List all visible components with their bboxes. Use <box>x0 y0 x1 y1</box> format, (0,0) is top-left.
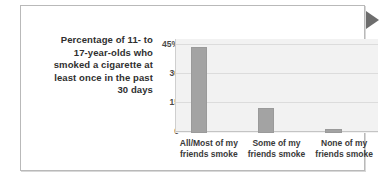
bar-band <box>243 39 310 133</box>
bar-band <box>176 39 243 133</box>
bar-series <box>176 39 378 133</box>
bar-none-friends-smoke[interactable] <box>325 129 341 133</box>
x-tick-label-none: None of my friends smoke <box>310 138 378 159</box>
screenshot-root: Percentage of 11- to 17-year-olds who sm… <box>0 0 385 181</box>
x-tick-line: None of my <box>310 138 378 149</box>
x-tick-line: All/Most of my <box>175 138 243 149</box>
bar-some-friends-smoke[interactable] <box>258 108 274 133</box>
x-tick-label-some: Some of my friends smoke <box>243 138 311 159</box>
chart-caption: Percentage of 11- to 17-year-olds who sm… <box>49 34 153 97</box>
bar-chart: 45% 30 15 0 <box>155 37 380 169</box>
plot-area <box>175 39 378 133</box>
bar-all-most-friends-smoke[interactable] <box>191 47 207 133</box>
x-axis-labels: All/Most of my friends smoke Some of my … <box>175 138 378 159</box>
x-tick-line: friends smoke <box>310 149 378 160</box>
x-tick-label-all-most: All/Most of my friends smoke <box>175 138 243 159</box>
bar-band <box>311 39 378 133</box>
triangle-right-icon <box>366 11 379 29</box>
x-tick-line: Some of my <box>243 138 311 149</box>
chart-panel: Percentage of 11- to 17-year-olds who sm… <box>20 5 365 171</box>
x-tick-line: friends smoke <box>175 149 243 160</box>
x-tick-line: friends smoke <box>243 149 311 160</box>
